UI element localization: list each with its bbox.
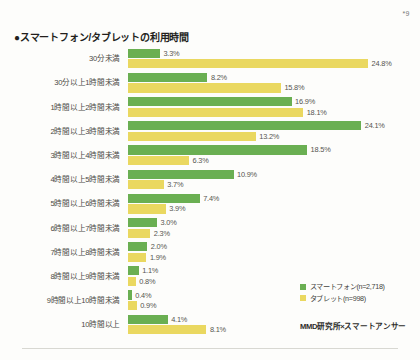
footer-divider [22, 348, 398, 349]
chart-row: 2時間以上3時間未満24.1%13.2% [0, 120, 420, 144]
chart-row: 4時間以上5時間未満10.9%3.7% [0, 168, 420, 192]
legend-label-smartphone: スマートフォン(n=2,718) [310, 281, 385, 293]
bar-item-tablet: 18.1% [128, 108, 327, 117]
legend-swatch-smartphone-icon [300, 284, 306, 290]
bar-smartphone [128, 73, 207, 82]
bar-item-tablet: 2.3% [128, 229, 170, 238]
bar-value-label: 1.9% [146, 253, 166, 262]
bar-value-label: 3.0% [157, 218, 177, 227]
bar-smartphone [128, 49, 160, 58]
bar-tablet [128, 229, 150, 238]
bar-smartphone [128, 218, 157, 227]
category-label: 30分以上1時間未満 [0, 79, 128, 87]
legend-item-smartphone: スマートフォン(n=2,718) [300, 281, 385, 293]
category-label: 10時間以上 [0, 321, 128, 329]
bar-smartphone [128, 266, 139, 275]
bar-value-label: 8.1% [206, 325, 226, 334]
bar-value-label: 3.9% [166, 204, 186, 213]
bar-group: 2.0%1.9% [128, 241, 420, 265]
bar-value-label: 0.8% [136, 277, 156, 286]
category-label: 8時間以上9時間未満 [0, 273, 128, 281]
chart-row: 1時間以上2時間未満16.9%18.1% [0, 95, 420, 119]
bar-value-label: 3.7% [164, 180, 184, 189]
bar-item-tablet: 3.7% [128, 180, 183, 189]
bar-tablet [128, 59, 368, 68]
bar-value-label: 4.1% [168, 315, 188, 324]
bar-group: 16.9%18.1% [128, 95, 420, 119]
bar-item-tablet: 1.9% [128, 253, 166, 262]
category-label: 2時間以上3時間未満 [0, 128, 128, 136]
bar-value-label: 16.9% [292, 97, 315, 106]
category-label: 1時間以上2時間未満 [0, 104, 128, 112]
bar-item-smartphone: 2.0% [128, 242, 167, 251]
bar-tablet [128, 325, 206, 334]
bar-tablet [128, 83, 281, 92]
legend-swatch-tablet-icon [300, 295, 306, 301]
category-label: 3時間以上4時間未満 [0, 152, 128, 160]
category-label: 9時間以上10時間未満 [0, 297, 128, 305]
bar-item-smartphone: 24.1% [128, 121, 385, 130]
bar-item-smartphone: 16.9% [128, 97, 315, 106]
bar-group: 3.3%24.8% [128, 47, 420, 71]
category-label: 5時間以上6時間未満 [0, 200, 128, 208]
bar-item-smartphone: 10.9% [128, 170, 257, 179]
bar-value-label: 18.5% [307, 145, 330, 154]
chart-row: 5時間以上6時間未満7.4%3.9% [0, 192, 420, 216]
category-label: 6時間以上7時間未満 [0, 225, 128, 233]
bar-tablet [128, 108, 303, 117]
bar-smartphone [128, 242, 147, 251]
category-label: 30分未満 [0, 55, 128, 63]
bar-group: 3.0%2.3% [128, 216, 420, 240]
bar-smartphone [128, 145, 307, 154]
bar-value-label: 13.2% [256, 132, 279, 141]
bar-item-smartphone: 3.0% [128, 218, 177, 227]
bar-item-tablet: 0.9% [128, 301, 156, 310]
bar-item-smartphone: 4.1% [128, 315, 187, 324]
category-label: 7時間以上8時間未満 [0, 249, 128, 257]
bar-value-label: 7.4% [200, 194, 220, 203]
bar-group: 24.1%13.2% [128, 120, 420, 144]
bar-value-label: 2.0% [147, 242, 167, 251]
bar-value-label: 24.8% [368, 59, 391, 68]
legend-item-tablet: タブレット(n=998) [300, 293, 385, 305]
chart-row: 3時間以上4時間未満18.5%6.3% [0, 144, 420, 168]
bar-group: 7.4%3.9% [128, 192, 420, 216]
bar-tablet [128, 253, 146, 262]
category-label: 4時間以上5時間未満 [0, 176, 128, 184]
bar-group: 18.5%6.3% [128, 144, 420, 168]
bar-smartphone [128, 121, 361, 130]
chart-row: 30分以上1時間未満8.2%15.8% [0, 71, 420, 95]
chart-container: *9 ●スマートフォン/タブレットの利用時間 30分未満3.3%24.8%30分… [0, 0, 420, 360]
chart-row: 6時間以上7時間未満3.0%2.3% [0, 216, 420, 240]
bar-tablet [128, 132, 256, 141]
bar-item-tablet: 8.1% [128, 325, 226, 334]
bar-item-smartphone: 3.3% [128, 49, 179, 58]
bar-tablet [128, 204, 166, 213]
bar-value-label: 8.2% [207, 73, 227, 82]
bar-value-label: 6.3% [189, 156, 209, 165]
bar-item-tablet: 24.8% [128, 59, 392, 68]
chart-legend: スマートフォン(n=2,718) タブレット(n=998) [300, 281, 385, 304]
bar-value-label: 15.8% [281, 83, 304, 92]
bar-value-label: 10.9% [234, 170, 257, 179]
legend-label-tablet: タブレット(n=998) [310, 293, 366, 305]
bar-value-label: 2.3% [150, 229, 170, 238]
bar-value-label: 3.3% [160, 49, 180, 58]
bar-smartphone [128, 315, 168, 324]
bar-group: 10.9%3.7% [128, 168, 420, 192]
chart-row: 30分未満3.3%24.8% [0, 47, 420, 71]
bar-item-smartphone: 8.2% [128, 73, 227, 82]
bar-value-label: 0.9% [137, 301, 157, 310]
bar-tablet [128, 180, 164, 189]
bar-value-label: 1.1% [139, 266, 159, 275]
page-marker: *9 [402, 10, 410, 17]
bar-smartphone [128, 194, 200, 203]
bar-group: 8.2%15.8% [128, 71, 420, 95]
bar-tablet [128, 277, 136, 286]
bar-item-tablet: 15.8% [128, 83, 304, 92]
chart-source: MMD研究所×スマートアンサー [300, 320, 406, 331]
chart-row: 7時間以上8時間未満2.0%1.9% [0, 241, 420, 265]
bar-item-smartphone: 7.4% [128, 194, 219, 203]
bar-value-label: 24.1% [361, 121, 384, 130]
bar-value-label: 0.4% [132, 291, 152, 300]
